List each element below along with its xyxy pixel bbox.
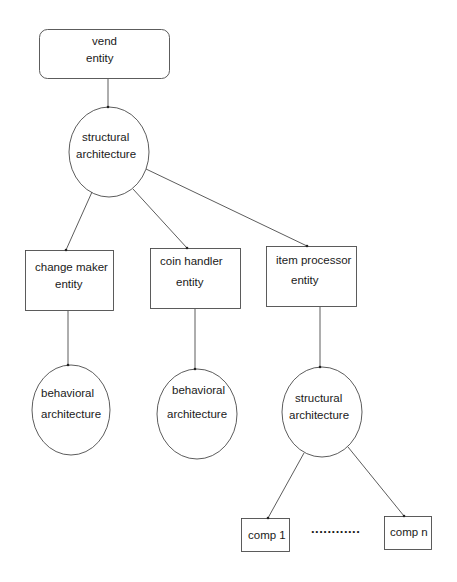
behavioral-1-label-line2: architecture [41,409,101,421]
behavioral-2-label-line2: architecture [167,409,227,421]
arrowhead-dot [267,517,270,520]
arrowhead-dot [403,515,406,518]
arrowhead-dot [186,247,189,250]
arrowhead-dot [65,249,68,252]
vend-entity-label-line2: entity [86,53,114,65]
edge-structural-2-to-comp-1 [268,453,304,518]
behavioral-1-label-line1: behavioral [41,388,94,400]
edge-structural-to-change-maker [66,192,92,250]
comp-1-label: comp 1 [248,530,286,542]
item-processor-label-line1: item processor [276,255,351,267]
arrowhead-dot [194,368,197,371]
structural-top-label-line2: architecture [76,149,136,161]
structural-bottom-label-line2: architecture [289,410,349,422]
arrowhead-dot [306,245,309,248]
structural-top-label-line1: structural [82,132,129,144]
diagram-canvas [0,0,457,582]
edge-structural-2-to-comp-n [348,447,404,516]
vend-entity-label-line1: vend [92,36,117,48]
structural-bottom-label-line1: structural [295,393,342,405]
arrowhead-dot [107,106,110,109]
item-processor-label-line2: entity [291,275,319,287]
behavioral-2-label-line1: behavioral [172,385,225,397]
ellipsis-dots: ............ [311,521,360,536]
comp-n-label: comp n [390,527,428,539]
coin-handler-label-line1: coin handler [160,256,223,268]
edge-structural-to-item-processor [146,169,307,246]
change-maker-label-line1: change maker [35,262,108,274]
arrowhead-dot [67,364,70,367]
arrowhead-dot [319,366,322,369]
change-maker-label-line2: entity [55,279,83,291]
edge-structural-to-coin-handler [133,189,187,248]
coin-handler-label-line2: entity [176,277,204,289]
